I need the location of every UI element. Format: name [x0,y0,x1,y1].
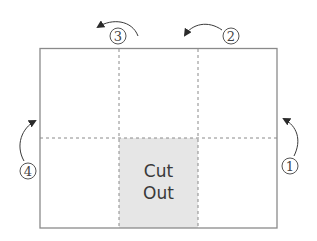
fold-arrow-icon [284,119,298,156]
step-3: 3 [98,22,138,44]
step-4: 4 [20,121,36,179]
fold-diagram: Cut Out 3 2 4 1 [0,0,317,241]
step-2: 2 [185,24,239,44]
cutout-label-line2: Out [143,183,174,203]
fold-arrow-icon [185,24,222,35]
step-3-number: 3 [114,29,122,44]
cutout-label-line1: Cut [144,161,174,181]
step-1-number: 1 [286,159,294,174]
fold-arrow-icon [20,121,35,161]
step-4-number: 4 [24,164,32,179]
step-1: 1 [282,119,298,174]
step-2-number: 2 [227,29,235,44]
